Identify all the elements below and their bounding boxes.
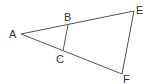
segment-ef bbox=[122, 11, 134, 74]
label-a: A bbox=[9, 28, 17, 40]
segment-bc bbox=[63, 25, 68, 51]
label-c: C bbox=[56, 53, 64, 65]
segment-ae bbox=[21, 11, 134, 34]
segment-af bbox=[21, 34, 122, 74]
label-e: E bbox=[136, 4, 143, 16]
label-b: B bbox=[64, 11, 71, 23]
triangle-diagram: A B C E F bbox=[0, 0, 146, 84]
label-f: F bbox=[123, 73, 130, 84]
